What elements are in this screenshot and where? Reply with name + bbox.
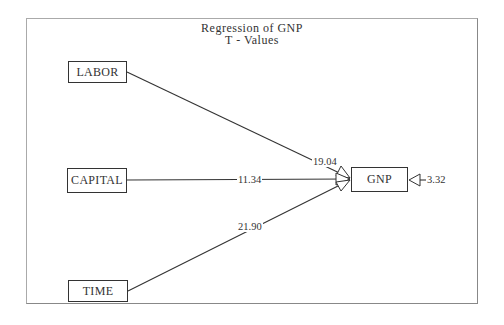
node-labor: LABOR: [68, 61, 127, 83]
t-value-labor: 19.04: [312, 156, 338, 167]
t-value-error: 3.32: [426, 174, 446, 185]
node-capital: CAPITAL: [67, 168, 127, 193]
time-gnp-path: [128, 180, 350, 291]
t-value-time: 21.90: [237, 221, 263, 232]
arrowhead-icon: [336, 180, 350, 191]
node-time: TIME: [68, 280, 128, 302]
path-arrows: [0, 0, 504, 325]
t-value-capital: 11.34: [237, 174, 262, 185]
arrowhead-icon: [409, 174, 420, 186]
node-gnp: GNP: [351, 167, 408, 192]
